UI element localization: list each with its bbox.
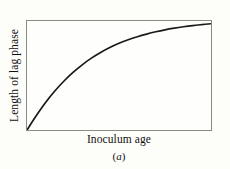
x-axis-label: Inoculum age	[26, 133, 212, 145]
plot-frame	[26, 20, 212, 131]
panel-label-close: )	[122, 150, 126, 162]
y-axis-label-text: Length of lag phase	[8, 29, 20, 122]
x-axis-label-text: Inoculum age	[87, 133, 151, 145]
curve-svg	[27, 21, 211, 130]
y-axis-label: Length of lag phase	[5, 20, 23, 131]
figure-panel-a: Length of lag phase Inoculum age (a)	[0, 0, 230, 169]
panel-label: (a)	[26, 150, 212, 162]
lag-phase-curve	[27, 24, 211, 130]
